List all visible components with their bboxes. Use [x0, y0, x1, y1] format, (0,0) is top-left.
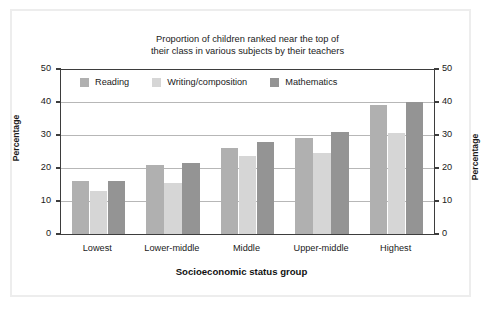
axis-tick [434, 200, 439, 201]
bar [388, 133, 406, 234]
y-tick-label: 50 [21, 64, 51, 73]
bar [146, 165, 164, 234]
y-tick-label: 20 [21, 163, 51, 172]
bar [331, 132, 349, 234]
y-tick-label: 10 [21, 196, 51, 205]
axis-tick [56, 134, 61, 135]
x-tick-label: Lowest [60, 243, 135, 253]
chart-title: Proportion of children ranked near the t… [120, 33, 375, 57]
bar [406, 102, 424, 234]
y-axis-title-left: Percentage [11, 115, 21, 161]
y-tick-label: 20 [442, 163, 472, 172]
axis-tick [56, 68, 61, 69]
bar-group [210, 69, 285, 234]
bars-layer [61, 69, 434, 234]
bar [295, 138, 313, 234]
bar [221, 148, 239, 234]
bar [313, 153, 331, 234]
axis-tick [434, 167, 439, 168]
axis-tick [434, 68, 439, 69]
bar-chart-figure: Proportion of children ranked near the t… [0, 0, 483, 309]
bar-group [61, 69, 136, 234]
y-axis-title-right: Percentage [470, 134, 480, 180]
bar [72, 181, 90, 234]
y-tick-label: 0 [442, 229, 472, 238]
bar [182, 163, 200, 234]
y-tick-label: 50 [442, 64, 472, 73]
bar [257, 142, 275, 234]
plot-area [60, 69, 435, 235]
x-tick-label: Middle [209, 243, 284, 253]
y-tick-label: 0 [21, 229, 51, 238]
bar-group [359, 69, 434, 234]
x-tick-label: Lower-middle [135, 243, 210, 253]
axis-tick [434, 101, 439, 102]
y-tick-label: 40 [21, 97, 51, 106]
y-tick-label: 30 [21, 130, 51, 139]
x-axis-title: Socioeconomic status group [0, 266, 483, 277]
bar [239, 156, 257, 234]
y-tick-label: 40 [442, 97, 472, 106]
x-tick-label: Highest [358, 243, 433, 253]
axis-tick [434, 233, 439, 234]
y-tick-label: 10 [442, 196, 472, 205]
x-tick-label: Upper-middle [284, 243, 359, 253]
axis-tick [56, 200, 61, 201]
bar-group [136, 69, 211, 234]
axis-tick [56, 167, 61, 168]
bar [370, 105, 388, 234]
y-tick-label: 30 [442, 130, 472, 139]
bar [108, 181, 126, 234]
bar [90, 191, 108, 234]
axis-tick [434, 134, 439, 135]
bar-group [285, 69, 360, 234]
chart-screenshot: Proportion of children ranked near the t… [0, 0, 483, 309]
axis-tick [56, 233, 61, 234]
axis-tick [56, 101, 61, 102]
bar [164, 183, 182, 234]
chart-title-line-2: their class in various subjects by their… [120, 45, 375, 57]
chart-title-line-1: Proportion of children ranked near the t… [120, 33, 375, 45]
